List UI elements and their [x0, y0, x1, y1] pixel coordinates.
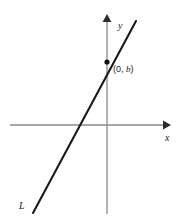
y-intercept-label-prefix: (0, — [113, 64, 126, 74]
line-L — [33, 21, 136, 213]
y-intercept-dot — [104, 59, 109, 64]
y-axis-arrow-icon — [103, 14, 112, 22]
coordinate-plane-svg: y x L (0, b) — [0, 0, 181, 221]
x-axis-arrow-icon — [163, 121, 171, 130]
line-label-L: L — [18, 200, 25, 211]
y-axis-label: y — [117, 20, 123, 31]
x-axis-label: x — [164, 132, 170, 143]
y-intercept-label-suffix: ) — [131, 64, 134, 74]
y-intercept-label: (0, b) — [113, 64, 134, 74]
graph-figure: y x L (0, b) — [0, 0, 181, 221]
